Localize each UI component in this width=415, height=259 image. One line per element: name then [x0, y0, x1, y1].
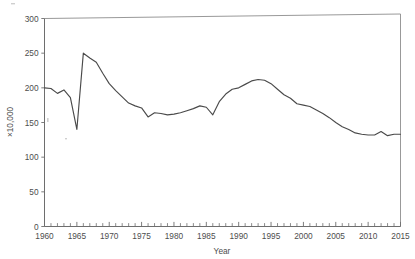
- x-tick-label-1995: 1995: [262, 231, 281, 241]
- y-tick-label-250: 250: [25, 48, 39, 58]
- y-tick-label-150: 150: [25, 118, 39, 128]
- x-axis-title: Year: [214, 246, 231, 256]
- data-series-group: [45, 53, 401, 136]
- x-tick-label-2000: 2000: [294, 231, 313, 241]
- x-axis-major-ticks: [45, 222, 401, 227]
- x-tick-label-2010: 2010: [359, 231, 378, 241]
- y-tick-label-200: 200: [25, 83, 39, 93]
- scan-artifacts: [11, 3, 67, 139]
- x-axis-minor-ticks: [51, 223, 394, 226]
- x-tick-label-1965: 1965: [68, 231, 87, 241]
- data-line-value: [45, 53, 401, 136]
- y-tick-label-50: 50: [29, 187, 39, 197]
- x-tick-label-1990: 1990: [229, 231, 248, 241]
- y-tick-label-100: 100: [25, 152, 39, 162]
- x-tick-label-1975: 1975: [132, 231, 151, 241]
- x-axis-tick-labels: 1960196519701975198019851990199520002005…: [35, 231, 410, 241]
- y-axis: 050100150200250300 ×10,000: [5, 14, 45, 232]
- x-tick-label-1980: 1980: [165, 231, 184, 241]
- y-tick-label-300: 300: [25, 14, 39, 24]
- x-tick-label-2015: 2015: [391, 231, 410, 241]
- x-tick-label-1985: 1985: [197, 231, 216, 241]
- x-axis: 1960196519701975198019851990199520002005…: [35, 222, 410, 256]
- x-tick-label-1970: 1970: [100, 231, 119, 241]
- x-tick-label-2005: 2005: [327, 231, 346, 241]
- y-axis-tick-labels: 050100150200250300: [25, 14, 39, 232]
- chart-canvas: 050100150200250300 ×10,000 1960196519701…: [0, 0, 415, 259]
- y-axis-title: ×10,000: [5, 107, 15, 138]
- x-tick-label-1960: 1960: [35, 231, 54, 241]
- line-chart-figure: 050100150200250300 ×10,000 1960196519701…: [0, 0, 415, 259]
- plot-frame: [45, 14, 401, 227]
